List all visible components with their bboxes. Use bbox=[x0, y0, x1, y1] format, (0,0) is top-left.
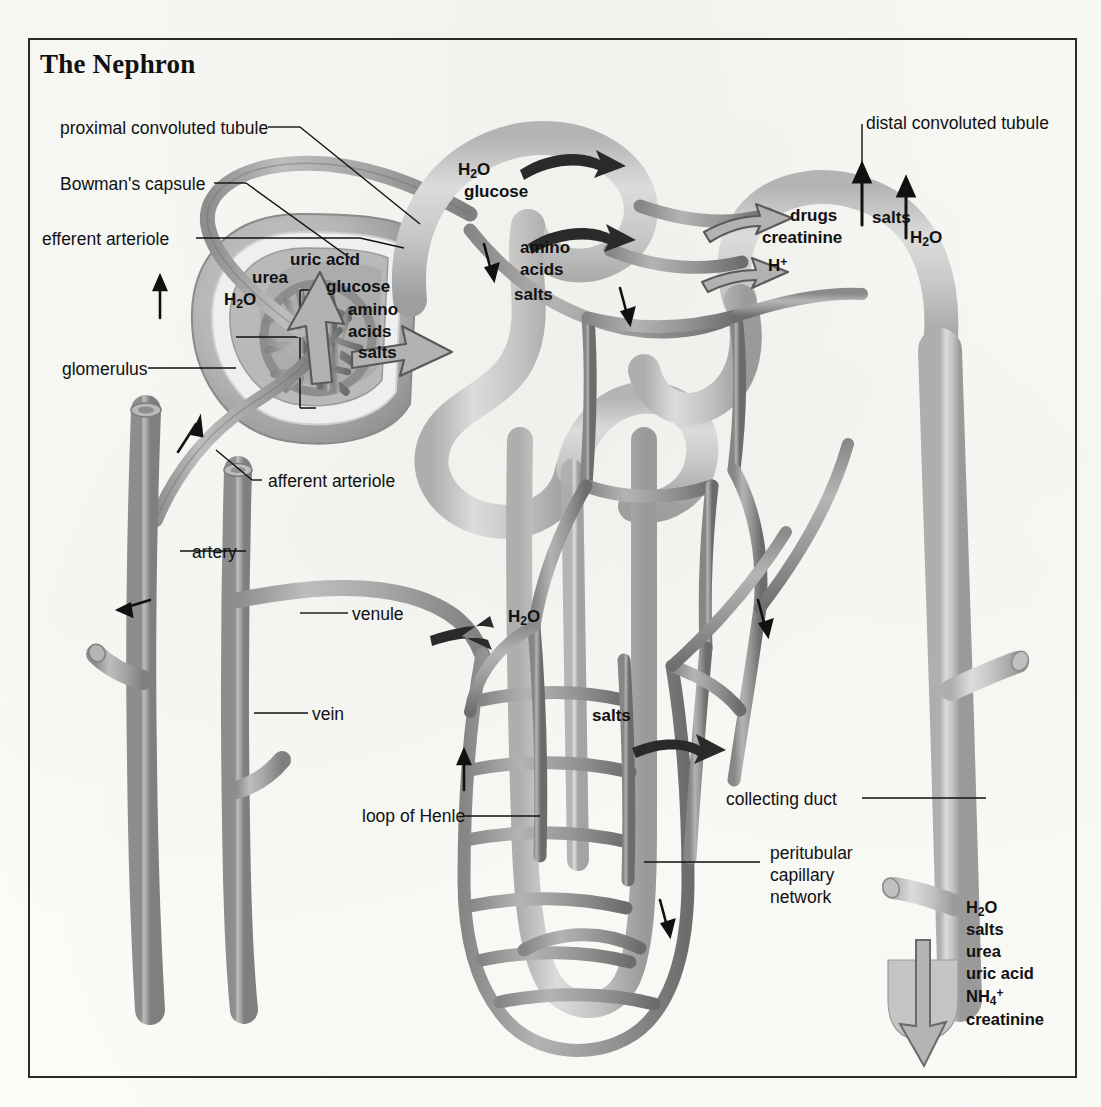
excretion-nh4: NH4+ bbox=[966, 986, 1003, 1008]
label-peritubular-line2: capillary bbox=[770, 865, 834, 886]
reabsorption-acids: acids bbox=[520, 260, 563, 280]
label-distal-convoluted-tubule: distal convoluted tubule bbox=[866, 113, 1049, 134]
excretion-h2o: H2O bbox=[966, 898, 997, 919]
filtration-salts: salts bbox=[358, 343, 397, 363]
dct-salts: salts bbox=[872, 208, 911, 228]
excretion-uric-acid: uric acid bbox=[966, 964, 1034, 983]
artery-vessel bbox=[86, 403, 161, 1010]
reabsorption-h2o: H2O bbox=[458, 160, 490, 181]
filtration-amino: amino bbox=[348, 300, 398, 320]
filtration-acids: acids bbox=[348, 322, 391, 342]
secretion-h-ion: H+ bbox=[768, 255, 787, 276]
reabsorption-glucose: glucose bbox=[464, 182, 528, 202]
label-proximal-convoluted-tubule: proximal convoluted tubule bbox=[60, 118, 268, 139]
reabsorption-salts: salts bbox=[514, 285, 553, 305]
label-peritubular-line3: network bbox=[770, 887, 831, 908]
collecting-duct bbox=[880, 350, 1032, 1040]
loop-h2o: H2O bbox=[508, 607, 540, 628]
filtration-uric-acid: uric acid bbox=[290, 250, 360, 270]
label-artery: artery bbox=[192, 542, 237, 563]
filtration-glucose: glucose bbox=[326, 277, 390, 297]
excretion-creatinine: creatinine bbox=[966, 1010, 1044, 1029]
reabsorption-amino: amino bbox=[520, 238, 570, 258]
label-bowmans-capsule: Bowman's capsule bbox=[60, 174, 205, 195]
filtration-h2o: H2O bbox=[224, 290, 256, 311]
excretion-urea: urea bbox=[966, 942, 1001, 961]
nephron-illustration bbox=[0, 0, 1101, 1107]
label-venule: venule bbox=[352, 604, 404, 625]
label-peritubular-line1: peritubular bbox=[770, 843, 853, 864]
filtration-urea: urea bbox=[252, 268, 288, 288]
label-vein: vein bbox=[312, 704, 344, 725]
label-loop-of-henle: loop of Henle bbox=[362, 806, 465, 827]
label-glomerulus: glomerulus bbox=[62, 359, 148, 380]
loop-salts: salts bbox=[592, 706, 631, 726]
dct-h2o: H2O bbox=[910, 228, 942, 249]
label-collecting-duct: collecting duct bbox=[726, 789, 837, 810]
secretion-drugs: drugs bbox=[790, 206, 837, 226]
label-afferent-arteriole: afferent arteriole bbox=[268, 471, 395, 492]
label-efferent-arteriole: efferent arteriole bbox=[42, 229, 169, 250]
excretion-salts: salts bbox=[966, 920, 1004, 939]
secretion-creatinine: creatinine bbox=[762, 228, 842, 248]
